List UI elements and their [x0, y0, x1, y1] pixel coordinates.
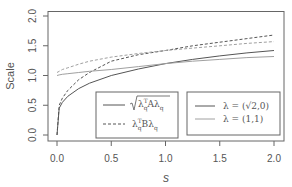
- legend-formula-box: [96, 92, 178, 138]
- x-axis-label: s: [163, 171, 169, 185]
- y-axis-label: Scale: [4, 62, 16, 90]
- legend-formula: λTqAλq λTqBλq: [96, 92, 178, 138]
- y-tick-label: 2.0: [27, 9, 38, 23]
- y-tick-label: 0.5: [27, 98, 38, 112]
- legend-entry-11: λ = (1,1): [223, 114, 263, 124]
- y-tick-label: 1.5: [27, 38, 38, 52]
- y-tick-label: 0.0: [27, 128, 38, 142]
- x-tick-label: 1.0: [159, 153, 173, 164]
- legend-lambda: λ = (√2,0) λ = (1,1): [187, 92, 280, 135]
- legend-entry-sqrt2: λ = (√2,0): [223, 101, 269, 111]
- series-line-3: [57, 42, 274, 73]
- x-tick-label: 0.0: [50, 153, 64, 164]
- x-tick-label: 2.0: [267, 153, 281, 164]
- y-tick-label: 1.0: [27, 68, 38, 82]
- x-axis: 0.00.51.01.52.0: [50, 141, 281, 164]
- line-chart: 0.00.51.01.52.0 0.00.51.01.52.0 s Scale …: [0, 0, 292, 187]
- y-axis: 0.00.51.01.52.0: [27, 9, 48, 142]
- x-tick-label: 0.5: [104, 153, 118, 164]
- x-tick-label: 1.5: [213, 153, 227, 164]
